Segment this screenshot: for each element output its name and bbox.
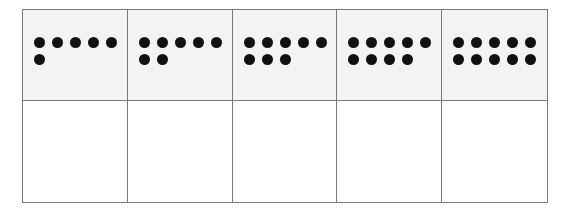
dot-icon [106,37,117,48]
dot-icon [348,37,359,48]
dot-cell-1 [23,10,128,101]
dot-icon [193,37,204,48]
dot-frame [453,37,536,65]
dot-icon [34,54,45,65]
dot-icon [280,37,291,48]
dot-icon [489,37,500,48]
dot-icon [366,54,377,65]
dot-icon [471,54,482,65]
dot-icon [211,37,222,48]
dot-icon [244,54,255,65]
dot-icon [453,54,464,65]
dot-cell-4 [337,10,442,101]
ten-frame-table [22,9,548,203]
dot-icon [52,37,63,48]
dot-icon [453,37,464,48]
dot-icon [244,37,255,48]
dot-icon [175,37,186,48]
dot-icon [298,37,309,48]
answer-cell-4[interactable] [337,101,442,202]
dot-icon [507,54,518,65]
dot-icon [525,37,536,48]
dot-cell-3 [233,10,338,101]
dot-frame [139,37,222,65]
dot-frame [348,37,431,65]
dot-icon [420,37,431,48]
dot-frame [244,37,327,65]
dot-icon [280,54,291,65]
dot-icon [471,37,482,48]
dot-icon [157,37,168,48]
dot-icon [384,37,395,48]
dot-icon [262,37,273,48]
dot-icon [262,54,273,65]
dot-frame [34,37,117,65]
dot-icon [507,37,518,48]
dot-icon [70,37,81,48]
dot-icon [139,37,150,48]
dot-icon [34,37,45,48]
dot-icon [489,54,500,65]
dot-icon [316,37,327,48]
dot-cell-5 [442,10,547,101]
dot-icon [88,37,99,48]
dot-icon [525,54,536,65]
dot-icon [384,54,395,65]
dot-cell-2 [128,10,233,101]
answer-cell-3[interactable] [233,101,338,202]
dot-icon [402,37,413,48]
dot-icon [402,54,413,65]
dot-icon [139,54,150,65]
answer-cell-5[interactable] [442,101,547,202]
dot-icon [348,54,359,65]
dot-icon [157,54,168,65]
dot-icon [366,37,377,48]
answer-cell-2[interactable] [128,101,233,202]
answer-cell-1[interactable] [23,101,128,202]
